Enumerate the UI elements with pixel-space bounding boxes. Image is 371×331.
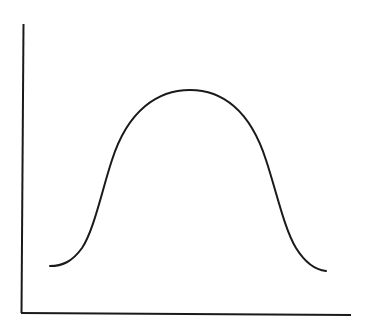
chart-canvas (0, 0, 371, 331)
bell-curve-chart (0, 0, 371, 331)
x-axis (21, 313, 351, 315)
y-axis (22, 24, 24, 313)
bell-curve-line (50, 90, 326, 271)
